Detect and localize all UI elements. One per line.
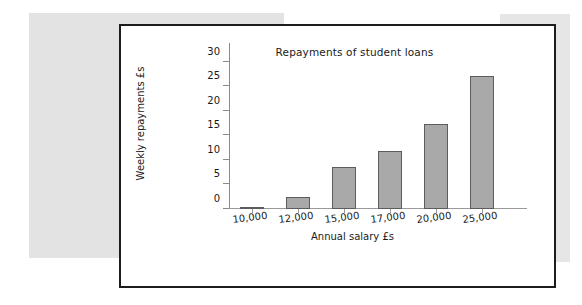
- y-tick: [223, 134, 229, 135]
- bar: [378, 151, 402, 209]
- y-tick-label: 30: [207, 47, 220, 57]
- y-tick-label: 15: [207, 120, 220, 130]
- y-tick: [223, 159, 229, 160]
- y-tick: [223, 183, 229, 184]
- x-tick-label: 20,000: [416, 211, 452, 225]
- bar: [332, 167, 356, 209]
- y-tick-label: 20: [207, 96, 220, 106]
- plot-area: 051015202530 10,00012,00015,00017,00020,…: [229, 52, 505, 209]
- y-tick: [223, 61, 229, 62]
- x-tick-label: 17,000: [370, 211, 406, 225]
- bar: [286, 197, 310, 209]
- y-tick-label: 5: [214, 169, 220, 179]
- y-tick-label: 0: [214, 194, 220, 204]
- y-tick-label: 10: [207, 145, 220, 155]
- y-tick-label: 25: [207, 71, 220, 81]
- x-tick-label: 25,000: [462, 211, 498, 225]
- bar: [424, 124, 448, 209]
- y-tick: [223, 208, 229, 209]
- chart-figure: Repayments of student loans Weekly repay…: [121, 26, 554, 286]
- bar: [470, 76, 494, 209]
- y-tick: [223, 110, 229, 111]
- y-axis-label: Weekly repayments £s: [135, 59, 146, 189]
- y-axis-spine: [229, 43, 230, 209]
- x-tick-label: 12,000: [278, 211, 314, 225]
- x-axis-label: Annual salary £s: [121, 231, 554, 242]
- x-tick-label: 10,000: [232, 211, 268, 225]
- figure-border-box: Repayments of student loans Weekly repay…: [119, 24, 556, 288]
- x-tick-label: 15,000: [324, 211, 360, 225]
- y-tick: [223, 85, 229, 86]
